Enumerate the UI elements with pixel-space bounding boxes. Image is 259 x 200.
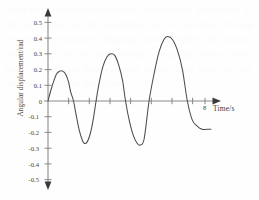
y-tick-label: -0.5 [17, 176, 39, 183]
figure-container: www.physicsandmathstutor.com experiment … [0, 0, 259, 200]
y-axis-up-arrow-icon [45, 8, 52, 17]
x-tick-label-8: 8 [203, 104, 206, 111]
y-tick-label: -0.3 [17, 145, 39, 152]
y-axis-title: Angular displacement/rad [17, 23, 25, 133]
displacement-curve [48, 37, 211, 146]
x-axis-title: Time/s [213, 104, 234, 113]
y-tick-label: -0.4 [17, 161, 39, 168]
y-axis-down-arrow-icon [45, 182, 52, 191]
